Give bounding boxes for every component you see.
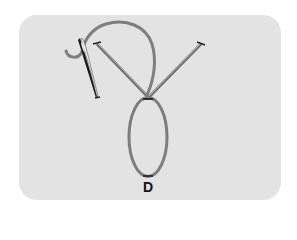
step-label: D — [140, 179, 156, 195]
chain-loop — [129, 98, 167, 177]
right-stitch-arm-highlight — [149, 43, 201, 96]
left-stitch-arm — [97, 44, 148, 97]
left-stitch-arm-highlight — [97, 43, 148, 96]
needle-icon — [78, 38, 100, 98]
left-anchor-mark — [93, 42, 101, 44]
right-stitch-arm — [149, 44, 201, 97]
